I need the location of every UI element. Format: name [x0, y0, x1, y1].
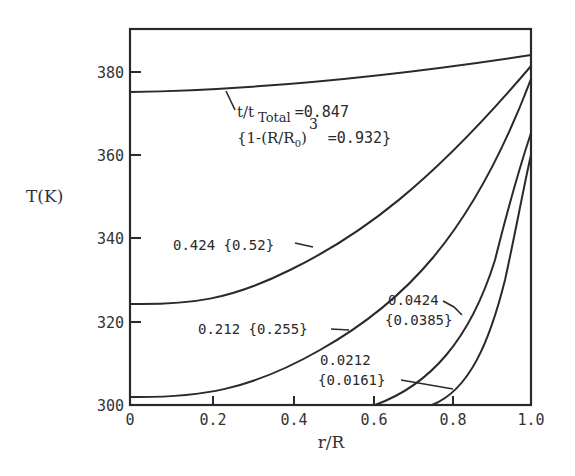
y-tick-label: 360 — [97, 147, 124, 165]
y-axis: 380 360 340 320 300 T(K) — [26, 64, 141, 415]
x-tick-label: 0.4 — [280, 411, 307, 429]
leader-line — [226, 91, 235, 110]
x-tick-label: 0.6 — [360, 411, 387, 429]
label-00212-line2: {0.0161} — [318, 372, 385, 388]
y-tick-label: 340 — [97, 230, 124, 248]
label-00424-line2: {0.0385} — [385, 312, 452, 328]
x-axis-title: r/R — [318, 432, 346, 452]
label-0212: 0.212 {0.255} — [198, 321, 308, 337]
x-tick-label: 0 — [125, 411, 134, 429]
leader-line — [295, 243, 313, 247]
x-tick-label: 0.2 — [199, 411, 226, 429]
x-tick-label: 1.0 — [517, 411, 544, 429]
x-tick-label: 0.8 — [439, 411, 466, 429]
y-tick-label: 380 — [97, 64, 124, 82]
plot-frame — [130, 29, 531, 405]
y-tick-label: 320 — [97, 314, 124, 332]
y-tick-label: 300 — [97, 397, 124, 415]
curve-0847 — [130, 55, 531, 92]
leader-line — [331, 329, 349, 330]
label-0424: 0.424 {0.52} — [173, 237, 274, 253]
curve-0424 — [130, 66, 531, 304]
label-00212-line1: 0.0212 — [320, 352, 371, 368]
annotations: t/tTotal=0.847 {1-(R/R0)3=0.932} 0.424 {… — [173, 91, 462, 389]
curve-00212 — [432, 155, 531, 405]
chart: 380 360 340 320 300 T(K) 0 0.2 0.4 0.6 0… — [0, 0, 575, 476]
y-axis-title: T(K) — [26, 186, 63, 206]
label-0847-line1: t/tTotal=0.847 — [237, 103, 349, 125]
label-00424-line1: 0.0424 — [388, 292, 439, 308]
